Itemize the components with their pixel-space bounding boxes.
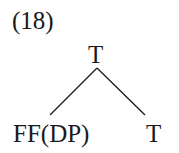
right-child-node: T bbox=[146, 121, 161, 146]
left-branch bbox=[50, 68, 97, 115]
right-branch bbox=[97, 68, 145, 115]
left-child-node: FF(DP) bbox=[13, 121, 89, 146]
